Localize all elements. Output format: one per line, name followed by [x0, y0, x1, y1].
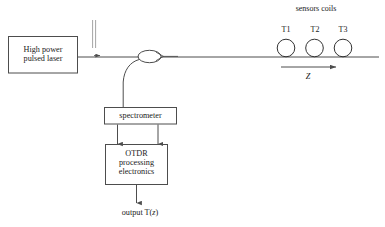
sensor-coil-t1 [277, 39, 295, 57]
output-label-prefix: output T( [122, 208, 153, 217]
sensor-coil-label-t3: T3 [331, 26, 355, 35]
output-label: output T(z) [90, 208, 190, 217]
otdr-box-label: OTDR processing electronics [105, 149, 168, 177]
sensor-coil-label-t1: T1 [274, 26, 298, 35]
spectrometer-box-label: spectrometer [104, 111, 177, 120]
output-label-suffix: ) [156, 208, 159, 217]
fiber-sensor-schematic-figure: High power pulsed laser spectrometer OTD… [0, 0, 385, 227]
laser-box-label: High power pulsed laser [8, 45, 78, 63]
otdr-label-line-1: OTDR [105, 149, 168, 158]
diagram-canvas [0, 0, 385, 227]
laser-label-line-2: pulsed laser [8, 54, 78, 63]
sensor-coil-t2 [306, 39, 324, 57]
otdr-label-line-2: processing [105, 158, 168, 167]
otdr-label-line-3: electronics [105, 167, 168, 176]
sensor-coil-label-t2: T2 [303, 26, 327, 35]
sensor-coil-t3 [334, 39, 352, 57]
fiber-coupler-icon [138, 50, 161, 62]
laser-label-line-1: High power [8, 45, 78, 54]
z-axis-label: Z [288, 72, 328, 81]
sensors-coils-title: sensors coils [256, 5, 376, 14]
fiber-coupler-to-spectrometer [123, 60, 139, 108]
